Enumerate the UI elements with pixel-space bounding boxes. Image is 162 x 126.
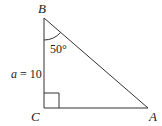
vertex-label-b: B bbox=[38, 1, 46, 16]
angle-label: 50° bbox=[50, 42, 67, 56]
vertex-label-c: C bbox=[31, 109, 40, 124]
triangle-svg: B C A 50° a = 10 bbox=[0, 0, 162, 126]
vertex-label-a: A bbox=[148, 109, 157, 124]
side-value: = 10 bbox=[17, 67, 42, 81]
side-ab bbox=[44, 18, 148, 108]
angle-arc-b bbox=[44, 32, 61, 40]
triangle-diagram: B C A 50° a = 10 bbox=[0, 0, 162, 126]
side-label-a: a = 10 bbox=[11, 67, 42, 81]
right-angle-marker bbox=[44, 93, 59, 108]
